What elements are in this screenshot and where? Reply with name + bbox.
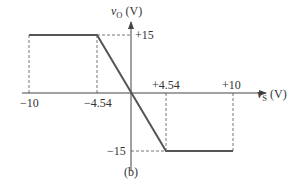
tick-x-pos10: +10 xyxy=(222,78,241,92)
tick-y-neg15: −15 xyxy=(107,144,126,158)
x-axis-label: vS (V) xyxy=(257,87,287,103)
transfer-characteristic-plot: vO (V) vS (V) +15 −15 −10 −4.54 +4.54 +1… xyxy=(0,0,304,192)
figure-caption: (b) xyxy=(124,165,138,179)
tick-x-neg10: −10 xyxy=(20,96,39,110)
tick-x-neg454: −4.54 xyxy=(84,96,112,110)
tick-y-pos15: +15 xyxy=(135,28,154,42)
y-axis-label: vO (V) xyxy=(111,4,142,20)
tick-x-pos454: +4.54 xyxy=(152,78,180,92)
